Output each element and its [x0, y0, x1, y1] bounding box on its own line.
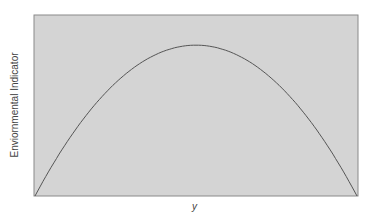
chart	[0, 0, 380, 218]
plot-area	[34, 15, 358, 196]
x-axis-label: y	[192, 201, 197, 212]
